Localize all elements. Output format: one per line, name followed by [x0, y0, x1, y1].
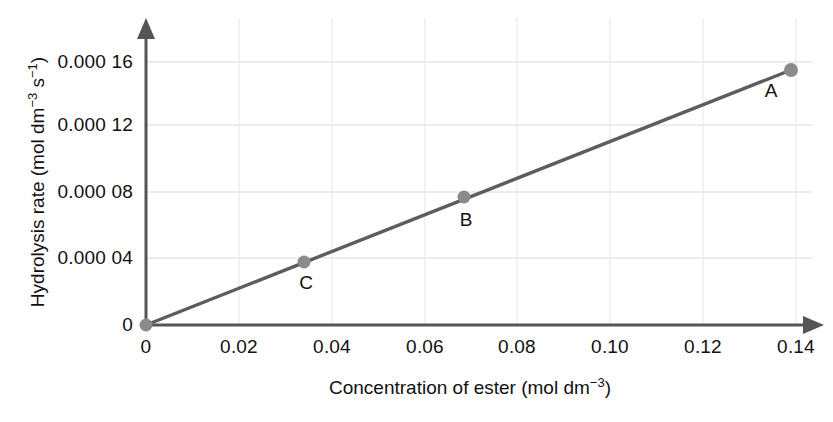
y-tick-label-00004: 0.000 04	[0, 247, 133, 269]
horizontal-gridlines	[146, 62, 812, 258]
x-tick-label-004: 0.04	[313, 336, 351, 358]
x-tick-label-014: 0.14	[777, 336, 815, 358]
x-tick-label-002: 0.02	[220, 336, 258, 358]
y-tick-label-00016: 0.000 16	[0, 51, 133, 73]
y-tick-label-0: 0	[0, 314, 133, 336]
x-tick-label-012: 0.12	[684, 336, 722, 358]
data-point-label-b: B	[460, 209, 473, 231]
x-tick-label-008: 0.08	[498, 336, 536, 358]
y-axis-title-sup-2: −1	[25, 63, 40, 78]
x-axis-title-main: Concentration of ester (mol dm	[329, 377, 590, 398]
data-point-origin	[140, 319, 153, 332]
x-axis-title: Concentration of ester (mol dm−3)	[329, 375, 611, 399]
x-tick-label-0: 0	[141, 336, 152, 358]
data-point-label-a: A	[765, 80, 778, 102]
y-tick-label-00012: 0.000 12	[0, 114, 133, 136]
y-axis-title-mid: s	[27, 78, 48, 93]
vertical-gridlines	[239, 18, 796, 325]
y-axis-title-tail: )	[27, 57, 48, 63]
data-point-c	[298, 256, 311, 269]
x-tick-label-010: 0.10	[591, 336, 629, 358]
plot-area: 0 0.000 04 0.000 08 0.000 12 0.000 16 0 …	[0, 0, 833, 422]
data-markers	[140, 63, 799, 332]
x-axis-title-sup: −3	[590, 375, 605, 390]
chart-screenshot: 0 0.000 04 0.000 08 0.000 12 0.000 16 0 …	[0, 0, 833, 422]
y-axis-title: Hydrolysis rate (mol dm−3 s−1)	[25, 57, 49, 307]
y-tick-label-00008: 0.000 08	[0, 181, 133, 203]
data-point-b	[458, 191, 471, 204]
y-axis-title-sup-1: −3	[25, 93, 40, 108]
x-tick-label-006: 0.06	[406, 336, 444, 358]
data-point-a	[784, 63, 798, 77]
y-axis-title-main: Hydrolysis rate (mol dm	[27, 108, 48, 308]
x-axis-title-tail: )	[605, 377, 611, 398]
data-point-label-c: C	[299, 272, 313, 294]
